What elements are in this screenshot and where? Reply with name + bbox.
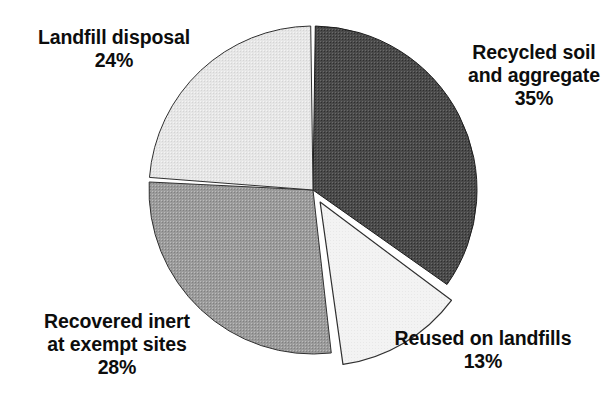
slice-label-reused-on-landfills-line1: Reused on landfills — [392, 327, 574, 350]
slice-label-recovered-inert-value: 28% — [22, 356, 212, 379]
pie-chart-figure: Landfill disposal 24% Recycled soil and … — [0, 0, 613, 403]
slice-label-recycled-soil-line1: Recycled soil — [463, 41, 605, 64]
slice-label-recovered-inert-at-exempt-sites: Recovered inert at exempt sites 28% — [22, 310, 212, 379]
slice-label-recovered-inert-line2: at exempt sites — [22, 333, 212, 356]
slice-label-landfill-disposal: Landfill disposal 24% — [14, 26, 214, 72]
slice-label-recycled-soil-line2: and aggregate — [463, 64, 605, 87]
slice-label-landfill-disposal-value: 24% — [14, 49, 214, 72]
slice-label-recovered-inert-line1: Recovered inert — [22, 310, 212, 333]
slice-label-recycled-soil-and-aggregate: Recycled soil and aggregate 35% — [463, 41, 605, 110]
slice-label-reused-on-landfills: Reused on landfills 13% — [392, 327, 574, 373]
slice-label-recycled-soil-value: 35% — [463, 87, 605, 110]
slice-label-landfill-disposal-line1: Landfill disposal — [14, 26, 214, 49]
slice-label-reused-on-landfills-value: 13% — [392, 350, 574, 373]
